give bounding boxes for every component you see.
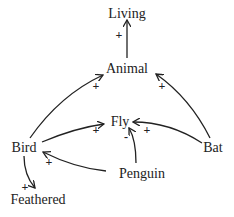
sign-penguin-bird: + (46, 155, 53, 170)
sign-bat-animal: + (159, 79, 166, 94)
sign-bird-feathered: + (22, 180, 29, 195)
node-penguin: Penguin (119, 166, 165, 182)
node-animal: Animal (106, 61, 148, 77)
sign-bird-animal: + (93, 79, 100, 94)
edge-penguin-fly (129, 128, 136, 163)
sign-penguin-fly: - (124, 130, 128, 145)
node-bird: Bird (12, 140, 37, 156)
node-fly: Fly (111, 114, 130, 130)
node-living: Living (108, 6, 145, 22)
sign-bird-fly: + (93, 123, 100, 138)
node-bat: Bat (203, 140, 222, 156)
node-feathered: Feathered (10, 192, 65, 208)
sign-bat-fly: + (144, 123, 151, 138)
sign-animal-living: + (116, 28, 123, 43)
